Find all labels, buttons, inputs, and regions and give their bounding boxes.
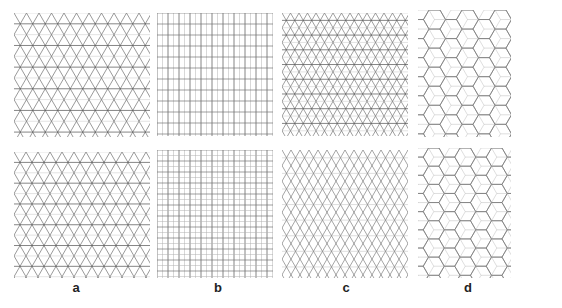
- panel-c-bottom-pattern: [282, 150, 408, 278]
- panel-d-top: [418, 10, 511, 137]
- panel-c-bottom: [282, 150, 408, 278]
- panel-a-top-pattern: [14, 13, 150, 137]
- panel-a-bottom-pattern: [14, 152, 150, 278]
- label-c: c: [342, 280, 349, 295]
- panel-d-top-pattern: [418, 10, 511, 137]
- panel-a-top: [14, 13, 150, 137]
- panel-b-bottom: [157, 150, 273, 278]
- panel-d-bottom-pattern: [418, 148, 511, 278]
- panel-b-top: [157, 13, 273, 136]
- label-d: d: [464, 280, 472, 295]
- panel-c-top-pattern: [282, 13, 408, 136]
- panel-c-top: [282, 13, 408, 136]
- panel-b-top-pattern: [157, 13, 273, 136]
- panel-d-bottom: [418, 148, 511, 278]
- label-a: a: [72, 280, 79, 295]
- label-b: b: [214, 280, 222, 295]
- panel-b-bottom-pattern: [157, 150, 273, 278]
- panel-a-bottom: [14, 152, 150, 278]
